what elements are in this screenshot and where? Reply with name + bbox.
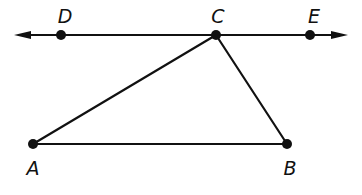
label-d: D [58,5,73,27]
point-d [56,30,66,40]
label-c: C [211,5,225,27]
label-a: A [25,157,40,179]
point-e [305,30,315,40]
point-b [282,139,292,149]
label-b: B [283,157,296,179]
segment-cb [216,35,287,144]
segment-ac [33,35,216,144]
right-arrowhead-icon [331,31,348,39]
diagram-canvas: D C E A B [0,0,362,195]
label-e: E [308,5,320,27]
point-c [211,30,221,40]
point-a [28,139,38,149]
left-arrowhead-icon [14,31,31,39]
geometry-diagram: D C E A B [0,0,362,195]
